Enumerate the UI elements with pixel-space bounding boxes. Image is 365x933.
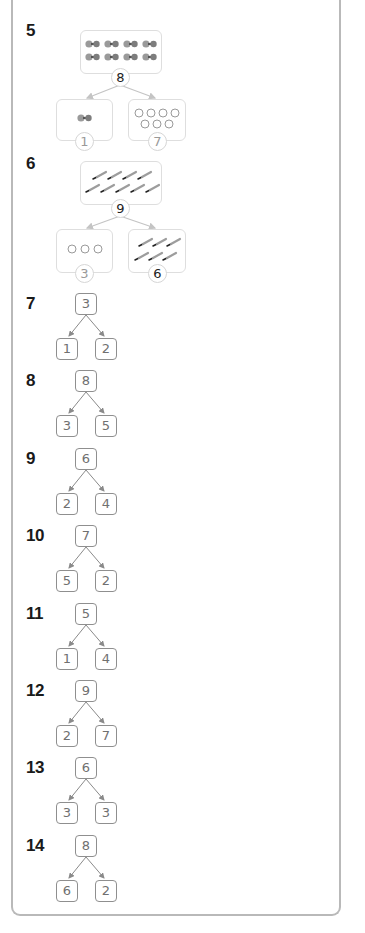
- dumbbell-icon: [123, 52, 138, 62]
- part-given-circle-left: 3: [75, 264, 94, 283]
- pencil-group: [81, 162, 160, 202]
- part-answer-circle-right[interactable]: 6: [148, 264, 167, 283]
- circle-icon: [164, 119, 174, 129]
- pencil-icon: [153, 239, 166, 246]
- whole-box[interactable]: 8: [75, 370, 97, 392]
- circle-icon: [170, 108, 180, 118]
- problem-number: 8: [26, 372, 35, 390]
- whole-box[interactable]: 3: [75, 293, 97, 315]
- part-box-left[interactable]: 3: [56, 415, 78, 437]
- circle-icon: [67, 244, 77, 254]
- dumbbell-icon: [142, 52, 157, 62]
- pencil-icon: [108, 172, 121, 179]
- whole-answer-circle[interactable]: 9: [111, 199, 130, 218]
- circle-icon: [93, 244, 103, 254]
- problem-number: 9: [26, 450, 35, 468]
- part-box-left[interactable]: 6: [56, 880, 78, 902]
- whole-box[interactable]: 6: [75, 757, 97, 779]
- circle-icon: [134, 108, 144, 118]
- problem-number: 6: [26, 155, 35, 173]
- whole-box[interactable]: 7: [75, 525, 97, 547]
- part-box-left[interactable]: 5: [56, 570, 78, 592]
- circle-icon: [158, 108, 168, 118]
- part-given-circle-left: 1: [75, 132, 94, 151]
- pencil-icon: [138, 172, 151, 179]
- problem-number: 13: [26, 759, 44, 777]
- circle-icon: [140, 119, 150, 129]
- pencil-icon: [116, 185, 129, 192]
- dumbbell-icon: [85, 52, 100, 62]
- dumbbell-group: [61, 110, 108, 126]
- dumbbell-group: [85, 37, 157, 63]
- pencil-icon: [149, 253, 162, 260]
- pencil-icon: [131, 185, 144, 192]
- circle-icon: [80, 244, 90, 254]
- dumbbell-icon: [85, 39, 100, 49]
- whole-answer-circle[interactable]: 8: [111, 68, 130, 87]
- dumbbell-icon: [104, 52, 119, 62]
- whole-box[interactable]: 9: [75, 680, 97, 702]
- circle-group: [61, 242, 108, 256]
- pencil-icon: [93, 172, 106, 179]
- pencil-icon: [163, 253, 176, 260]
- part-box-right[interactable]: 4: [95, 648, 117, 670]
- part-box-left[interactable]: 2: [56, 725, 78, 747]
- whole-box[interactable]: 6: [75, 448, 97, 470]
- part-box-left[interactable]: 2: [56, 493, 78, 515]
- dumbbell-icon: [142, 39, 157, 49]
- dumbbell-icon: [104, 39, 119, 49]
- pencil-icon: [167, 239, 180, 246]
- circle-icon: [152, 119, 162, 129]
- pencil-icon: [86, 185, 99, 192]
- part-box-right[interactable]: 2: [95, 570, 117, 592]
- circle-icon: [146, 108, 156, 118]
- pencil-icon: [139, 239, 152, 246]
- part-box-right[interactable]: 4: [95, 493, 117, 515]
- problem-number: 7: [26, 295, 35, 313]
- part-box-right[interactable]: 2: [95, 338, 117, 360]
- pencil-icon: [123, 172, 136, 179]
- part-box-right[interactable]: 5: [95, 415, 117, 437]
- pencil-icon: [101, 185, 114, 192]
- problem-number: 14: [26, 837, 44, 855]
- part-box-right[interactable]: 2: [95, 880, 117, 902]
- problem-number: 5: [26, 22, 35, 40]
- part-box-right[interactable]: 7: [95, 725, 117, 747]
- problem-number: 10: [26, 527, 44, 545]
- whole-box[interactable]: 8: [75, 835, 97, 857]
- dumbbell-icon: [123, 39, 138, 49]
- problem-number: 12: [26, 682, 44, 700]
- problem-number: 11: [26, 605, 43, 623]
- part-box-right[interactable]: 3: [95, 802, 117, 824]
- circle-group: [132, 107, 182, 129]
- part-box-left[interactable]: 3: [56, 802, 78, 824]
- part-box-left[interactable]: 1: [56, 648, 78, 670]
- part-box-left[interactable]: 1: [56, 338, 78, 360]
- dumbbell-icon: [77, 113, 92, 123]
- part-given-circle-right: 7: [148, 132, 167, 151]
- pencil-icon: [146, 185, 159, 192]
- pencil-icon: [135, 253, 148, 260]
- whole-box[interactable]: 5: [75, 603, 97, 625]
